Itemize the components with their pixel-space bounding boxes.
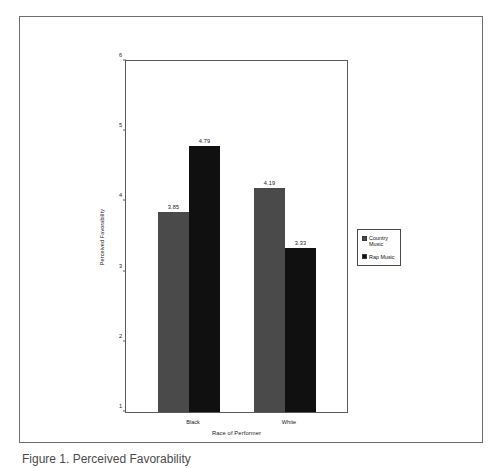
figure-caption: Figure 1. Perceived Favorability [22, 452, 462, 466]
bar-white-country-music[interactable]: 4.19 [254, 188, 285, 412]
bar-value-label-white-country: 4.19 [247, 180, 293, 186]
country-swatch-icon [362, 236, 367, 241]
rap-swatch-icon [362, 254, 367, 259]
x-axis-title: Race of Performer [125, 430, 348, 436]
bars-layer: 3.85 4.79 Black 4.19 3.33 White [126, 61, 347, 412]
bar-value-label-black-rap: 4.79 [182, 138, 228, 144]
legend-item-country-music[interactable]: Country Music [362, 235, 396, 248]
bar-white-rap-music[interactable]: 3.33 [285, 248, 316, 412]
legend-label-country-music: Country Music [369, 235, 396, 248]
legend-label-rap-music: Rap Music [369, 254, 394, 260]
y-axis-title: Perceived Favorability [96, 60, 108, 413]
bar-black-country-music[interactable]: 3.85 [158, 212, 189, 412]
y-tick-label-3: 3 [119, 263, 126, 269]
y-tick-label-5: 5 [119, 122, 126, 128]
y-tick-label-1: 1 [119, 403, 126, 409]
bar-group-black: 3.85 4.79 Black [148, 61, 238, 412]
chart-canvas: Perceived Favorability 6 5 4 3 2 1 3.85 [19, 16, 483, 443]
x-category-label-white: White [244, 419, 334, 425]
bar-group-white: 4.19 3.33 White [244, 61, 334, 412]
bar-value-label-white-rap: 3.33 [278, 240, 324, 246]
bar-black-rap-music[interactable]: 4.79 [189, 146, 220, 412]
y-tick-label-4: 4 [119, 192, 126, 198]
chart-legend: Country Music Rap Music [357, 229, 401, 266]
figure-page: Perceived Favorability 6 5 4 3 2 1 3.85 [0, 0, 502, 468]
plot-area: 6 5 4 3 2 1 3.85 4.79 Bla [125, 60, 348, 413]
y-tick-label-6: 6 [119, 52, 126, 58]
y-tick-label-2: 2 [119, 333, 126, 339]
x-category-label-black: Black [148, 419, 238, 425]
y-axis-title-text: Perceived Favorability [99, 208, 105, 264]
legend-item-rap-music[interactable]: Rap Music [362, 254, 396, 260]
